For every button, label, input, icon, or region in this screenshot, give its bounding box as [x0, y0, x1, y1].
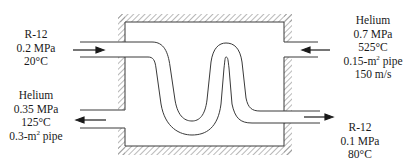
r12-outlet-fluid: R-12 [334, 121, 386, 135]
helium-inlet-velocity: 150 m/s [338, 68, 408, 82]
helium-outlet-pressure: 0.35 MPa [4, 103, 68, 117]
housing-inner-outline [80, 22, 318, 146]
helium-outlet-temperature: 125°C [4, 116, 68, 130]
r12-outlet-pressure: 0.1 MPa [334, 135, 386, 149]
helium-inlet-pressure: 0.7 MPa [338, 28, 408, 42]
r12-inlet-pressure: 0.2 MPa [10, 42, 62, 56]
helium-inlet-label: Helium 0.7 MPa 525°C 0.15-m2 pipe 150 m/… [338, 14, 408, 82]
r12-inlet-label: R-12 0.2 MPa 20°C [10, 28, 62, 69]
arrow-helium-out-icon [76, 117, 106, 123]
arrow-helium-in-icon [302, 47, 330, 53]
arrow-r12-in-icon [73, 47, 104, 53]
r12-inlet-fluid: R-12 [10, 28, 62, 42]
helium-inlet-pipe-area: 0.15-m2 pipe [338, 55, 408, 69]
flow-arrows [73, 47, 333, 123]
helium-outlet-pipe-area: 0.3-m2 pipe [4, 130, 68, 144]
r12-inlet-temperature: 20°C [10, 55, 62, 69]
arrow-r12-out-icon [304, 114, 333, 120]
housing-walls [118, 14, 292, 155]
helium-inlet-fluid: Helium [338, 14, 408, 28]
helium-outlet-fluid: Helium [4, 89, 68, 103]
helium-outlet-label: Helium 0.35 MPa 125°C 0.3-m2 pipe [4, 89, 68, 143]
helium-inlet-temperature: 525°C [338, 41, 408, 55]
r12-outlet-label: R-12 0.1 MPa 80°C [334, 121, 386, 162]
r12-outlet-temperature: 80°C [334, 148, 386, 162]
